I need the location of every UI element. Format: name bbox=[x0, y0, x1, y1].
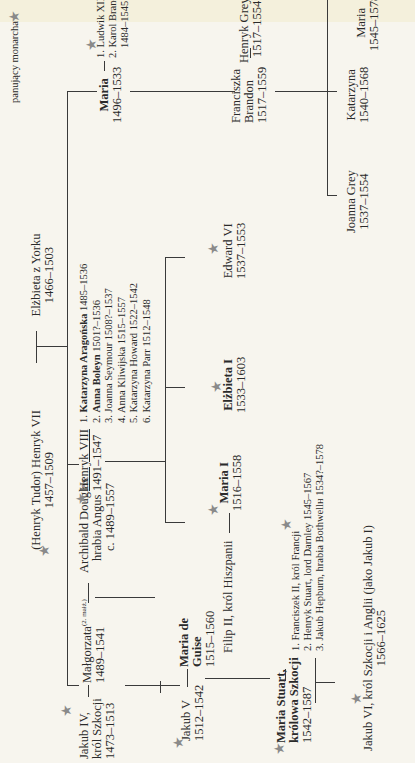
katherine-grey-dates: 1540–1568 bbox=[358, 67, 371, 123]
henry-viii-wives: 1. Katarzyna Aragońska 1485–1536 2. Anna… bbox=[78, 264, 153, 423]
descent-line bbox=[95, 597, 155, 598]
star-icon: ★ bbox=[85, 38, 99, 51]
legend-label: panujący monarcha bbox=[9, 21, 21, 103]
archibald-dates: c. 1489–1557 bbox=[104, 478, 117, 573]
star-icon: ★ bbox=[60, 704, 74, 717]
james-v-dates: 1512–1542 bbox=[193, 685, 206, 741]
page-edge bbox=[0, 0, 415, 22]
descent-line bbox=[205, 678, 270, 679]
descent-line bbox=[327, 91, 337, 92]
descent-line bbox=[67, 91, 79, 92]
henry-vii-dates: 1457–1509 bbox=[43, 365, 56, 595]
descent-line bbox=[36, 346, 68, 347]
philip-ii: Filip II, król Hiszpanii bbox=[222, 541, 235, 654]
mary-i-dates: 1516–1558 bbox=[231, 455, 244, 511]
mary-grey-dates: 1545–1578 bbox=[368, 0, 381, 51]
descent-line bbox=[327, 195, 337, 196]
jane-grey-dates: 1537–1554 bbox=[358, 170, 371, 233]
sibling-line bbox=[165, 258, 166, 523]
jane-grey: Joanna Grey 1537–1554 bbox=[345, 170, 371, 233]
marriage-line bbox=[187, 669, 188, 687]
mary-tudor-dates: 1496–1533 bbox=[111, 67, 124, 123]
henry-viii-dates: 1491–1547 bbox=[91, 429, 104, 491]
henry-grey: Henryk Grey 1517–1554 bbox=[238, 0, 264, 63]
descent-line bbox=[165, 522, 185, 523]
descent-line bbox=[275, 91, 327, 92]
marriage-line bbox=[88, 685, 89, 697]
elizabeth-i: Elżbieta I 1533–1603 bbox=[222, 357, 248, 413]
mary-guise: Maria de Guise 1515–1560 bbox=[178, 611, 217, 667]
mary-tudor-husbands: 1. Ludwik XII, król Francji 2. Karol Bra… bbox=[95, 0, 131, 58]
descent-line bbox=[315, 682, 335, 683]
edward-vi-dates: 1537–1553 bbox=[235, 223, 248, 279]
james-v: Jakub V 1512–1542 bbox=[180, 685, 206, 741]
marriage-line bbox=[229, 513, 230, 533]
elizabeth-york-dates: 1466–1503 bbox=[43, 225, 56, 325]
margaret-dates: 1489–1541 bbox=[94, 599, 107, 683]
star-icon: ★ bbox=[273, 742, 287, 755]
sibling-line bbox=[327, 0, 328, 196]
katherine-grey: Katarzyna 1540–1568 bbox=[345, 67, 371, 123]
mary-grey: Maria 1545–1578 bbox=[355, 0, 381, 51]
family-tree-canvas: ★ panujący monarcha ★ (Henryk Tudor) Hen… bbox=[0, 0, 415, 763]
descent-line bbox=[130, 91, 235, 92]
edward-vi: Edward VI 1537–1553 bbox=[222, 223, 248, 279]
sibling-line bbox=[67, 92, 68, 686]
mary-stuart-dates: 1542–1587 bbox=[301, 657, 314, 743]
frances-brandon: Franciszka Brandon 1517–1559 bbox=[230, 67, 269, 123]
james-iv-dates: 1473–1513 bbox=[104, 698, 117, 759]
henry-grey-dates: 1517–1554 bbox=[251, 0, 264, 63]
marriage-line bbox=[36, 331, 37, 363]
henry-viii: Henryk VIII 1491–1547 bbox=[78, 429, 104, 491]
mary-stuart-husbands: 1. Franciszek II, król Francji 2. Henryk… bbox=[290, 444, 326, 651]
marriage-line bbox=[88, 583, 89, 603]
mary-stuart: Maria Stuart, królowa Szkocji 1542–1587 bbox=[275, 657, 314, 743]
elizabeth-york: Elżbieta z Yorku 1466–1503 bbox=[30, 225, 56, 325]
star-icon: ★ bbox=[75, 492, 89, 505]
descent-line bbox=[67, 685, 79, 686]
star-icon: ★ bbox=[207, 242, 221, 255]
descent-line bbox=[79, 91, 97, 92]
marriage-line bbox=[104, 61, 105, 71]
mary-tudor: Maria 1496–1533 bbox=[98, 67, 124, 123]
marriage-line bbox=[285, 669, 286, 681]
descent-line bbox=[165, 387, 185, 388]
mary-guise-dates: 1515–1560 bbox=[204, 611, 217, 667]
descent-line bbox=[315, 658, 316, 703]
descent-line bbox=[125, 685, 180, 686]
descent-line bbox=[160, 681, 161, 693]
margaret: Małgorzata(2. małż.) 1489–1541 bbox=[78, 599, 107, 683]
margaret-note: (2. małż.) bbox=[80, 599, 88, 626]
james-vi: Jakub VI, król Szkocji i Anglii (jako Ja… bbox=[362, 523, 388, 753]
descent-line bbox=[105, 461, 165, 462]
frances-dates: 1517–1559 bbox=[256, 67, 269, 123]
margaret-name: Małgorzata bbox=[80, 626, 94, 683]
descent-line bbox=[165, 257, 185, 258]
mary-i: Maria I 1516–1558 bbox=[218, 455, 244, 511]
star-icon: ★ bbox=[280, 518, 294, 531]
james-vi-dates: 1566–1625 bbox=[375, 523, 388, 753]
henry-vii: (Henryk Tudor) Henryk VII 1457–1509 bbox=[30, 365, 56, 595]
elizabeth-i-dates: 1533–1603 bbox=[235, 357, 248, 413]
james-iv: Jakub IV, król Szkocji 1473–1513 bbox=[78, 698, 117, 759]
